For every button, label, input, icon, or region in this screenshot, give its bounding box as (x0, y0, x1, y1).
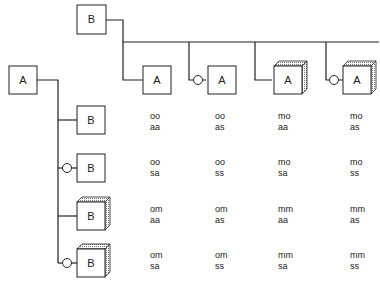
svg-text:om: om (215, 250, 228, 260)
svg-text:ss: ss (350, 261, 360, 271)
svg-text:sa: sa (278, 168, 288, 178)
svg-text:B: B (87, 162, 94, 174)
left-child-2: B (63, 154, 106, 182)
svg-text:oo: oo (215, 157, 225, 167)
svg-text:mm: mm (350, 250, 365, 260)
svg-text:sa: sa (278, 261, 288, 271)
svg-text:as: as (215, 215, 225, 225)
svg-text:B: B (87, 210, 94, 222)
svg-text:A: A (353, 74, 361, 86)
top-root-label: B (88, 13, 95, 25)
result-matrix: oo aa oo as mo aa mo as oo sa oo ss mo s… (150, 111, 365, 271)
svg-text:as: as (215, 122, 225, 132)
svg-text:aa: aa (278, 122, 288, 132)
inversion-circle-icon (194, 76, 203, 85)
left-child-4-cube: B (63, 244, 111, 277)
svg-text:aa: aa (150, 122, 160, 132)
svg-text:oo: oo (150, 111, 160, 121)
svg-text:sa: sa (150, 261, 160, 271)
svg-text:sa: sa (150, 168, 160, 178)
inversion-circle-icon (63, 259, 72, 268)
svg-text:ss: ss (215, 168, 225, 178)
svg-text:aa: aa (278, 215, 288, 225)
top-child-3-cube: A (274, 61, 307, 94)
svg-text:mo: mo (350, 157, 363, 167)
svg-text:as: as (350, 215, 360, 225)
svg-text:A: A (153, 74, 161, 86)
svg-text:B: B (87, 114, 94, 126)
svg-text:oo: oo (215, 111, 225, 121)
inversion-circle-icon (63, 164, 72, 173)
svg-text:mm: mm (350, 204, 365, 214)
left-root-node: A (9, 66, 37, 94)
top-root-node: B (77, 5, 106, 34)
svg-text:ss: ss (215, 261, 225, 271)
svg-text:mo: mo (350, 111, 363, 121)
svg-text:mo: mo (278, 111, 291, 121)
svg-text:mo: mo (278, 157, 291, 167)
left-tree-lines (37, 80, 77, 263)
svg-text:mm: mm (278, 250, 293, 260)
diagram-canvas: B A A A A A (0, 0, 380, 285)
svg-text:mm: mm (278, 204, 293, 214)
svg-text:A: A (284, 74, 292, 86)
left-child-3-cube: B (77, 197, 110, 230)
svg-text:aa: aa (150, 215, 160, 225)
svg-text:as: as (350, 122, 360, 132)
top-child-2: A (194, 66, 237, 94)
inversion-circle-icon (330, 76, 339, 85)
svg-text:ss: ss (350, 168, 360, 178)
svg-text:om: om (150, 204, 163, 214)
left-child-1: B (77, 106, 105, 134)
left-root-label: A (19, 74, 27, 86)
top-child-4-cube: A (330, 61, 377, 94)
svg-text:oo: oo (150, 157, 160, 167)
svg-text:om: om (215, 204, 228, 214)
svg-text:B: B (87, 257, 94, 269)
svg-text:om: om (150, 250, 163, 260)
top-child-1: A (143, 66, 171, 94)
svg-text:A: A (218, 74, 226, 86)
